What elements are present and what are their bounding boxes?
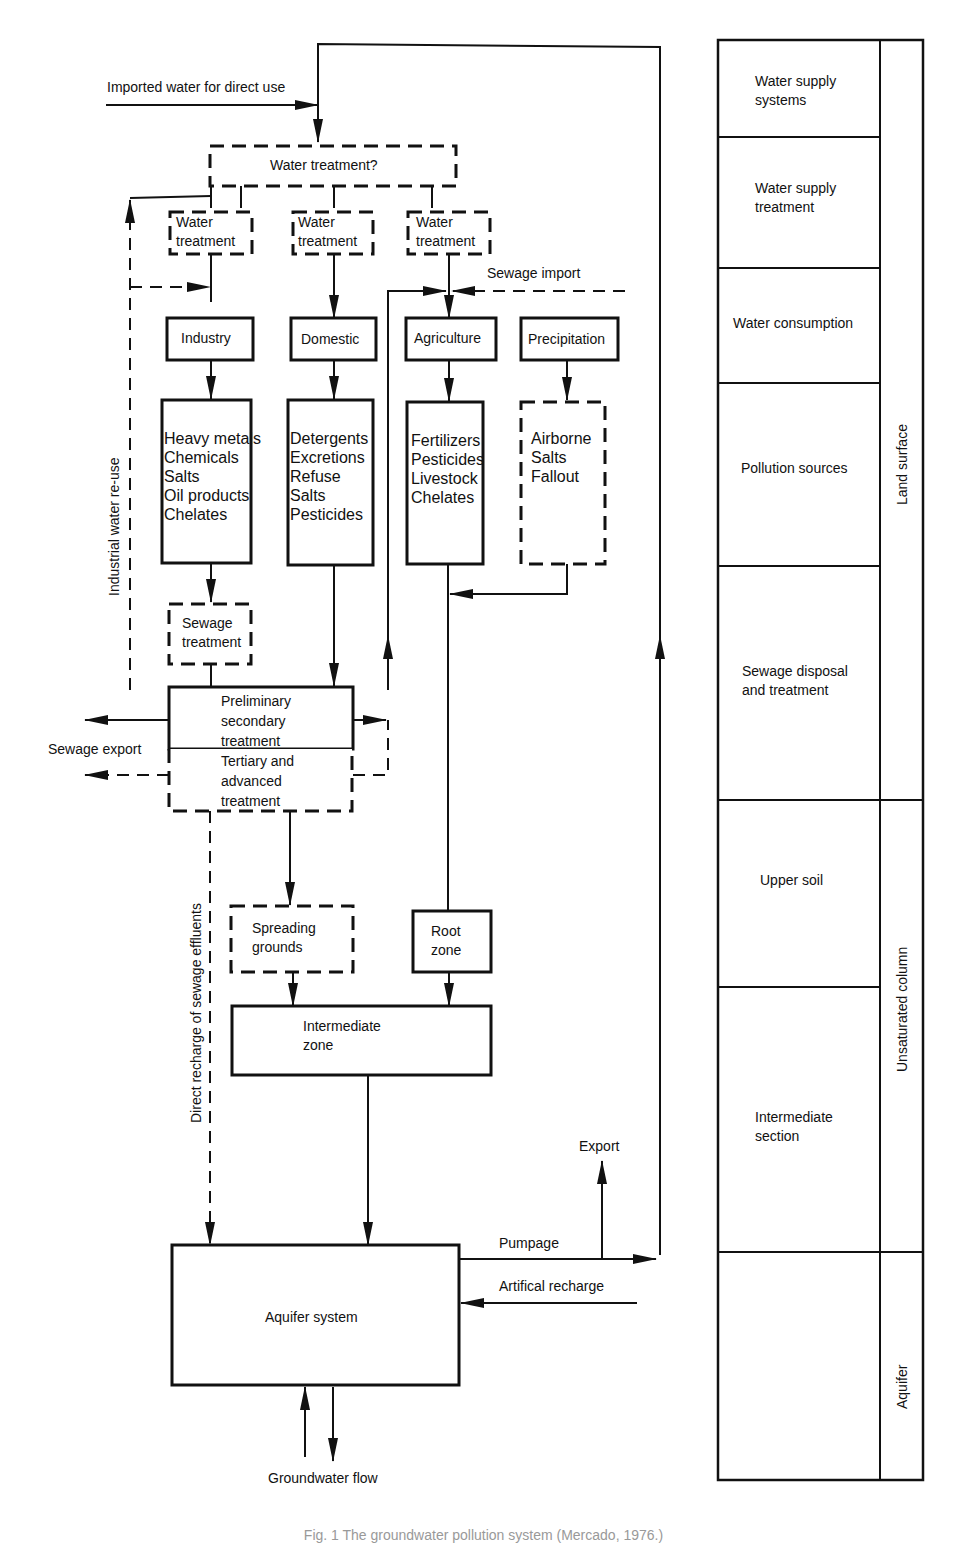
tertiary-treatment-label: Tertiary andadvancedtreatment	[221, 751, 294, 811]
domestic-pollutants: Detergents Excretions Refuse Salts Pesti…	[290, 429, 368, 524]
groundwater-flow-label: Groundwater flow	[268, 1469, 378, 1488]
artificial-recharge-label: Artifical recharge	[499, 1277, 604, 1296]
source-agriculture: Agriculture	[414, 329, 481, 348]
water-treatment-3: Watertreatment	[416, 213, 475, 251]
stage-sewage-disposal: Sewage disposaland treatment	[742, 662, 848, 700]
sewage-export-label: Sewage export	[48, 740, 141, 759]
direct-recharge-label: Direct recharge of sewage effluents	[188, 903, 204, 1123]
water-treatment-question-label: Water treatment?	[270, 156, 378, 175]
aquifer-system-label: Aquifer system	[265, 1308, 358, 1327]
sewage-treatment-label: Sewagetreatment	[182, 614, 241, 652]
agriculture-pollutants: Fertilizers Pesticides Livestock Chelate…	[411, 431, 484, 507]
intermediate-zone-label: Intermediatezone	[303, 1017, 381, 1055]
source-precipitation: Precipitation	[528, 330, 605, 349]
stage-column	[718, 40, 923, 1480]
stage-pollution-sources: Pollution sources	[741, 459, 848, 478]
source-industry: Industry	[181, 329, 231, 348]
stage-upper-soil: Upper soil	[760, 871, 823, 890]
industry-pollutants: Heavy metals Chemicals Salts Oil product…	[164, 429, 261, 524]
imported-water-label: Imported water for direct use	[107, 78, 285, 97]
industrial-reuse-label: Industrial water re-use	[106, 457, 122, 596]
sewage-import-label: Sewage import	[487, 264, 580, 283]
zone-land-surface: Land surface	[894, 424, 910, 505]
stage-water-supply-treatment: Water supplytreatment	[755, 179, 836, 217]
zone-aquifer: Aquifer	[894, 1365, 910, 1409]
stage-intermediate-section: Intermediatesection	[755, 1108, 833, 1146]
source-domestic: Domestic	[301, 330, 359, 349]
export-label: Export	[579, 1137, 619, 1156]
root-zone-label: Rootzone	[431, 922, 461, 960]
precipitation-pollutants: Airborne Salts Fallout	[531, 429, 591, 486]
stage-water-supply-systems: Water supplysystems	[755, 72, 836, 110]
figure-caption: Fig. 1 The groundwater pollution system …	[0, 1527, 967, 1543]
water-treatment-2: Watertreatment	[298, 213, 357, 251]
pumpage-label: Pumpage	[499, 1234, 559, 1253]
stage-water-consumption: Water consumption	[733, 314, 853, 333]
spreading-grounds-label: Spreadinggrounds	[252, 919, 316, 957]
preliminary-treatment-label: Preliminarysecondarytreatment	[221, 691, 291, 751]
zone-unsaturated-column: Unsaturated column	[894, 947, 910, 1072]
water-treatment-1: Watertreatment	[176, 213, 235, 251]
